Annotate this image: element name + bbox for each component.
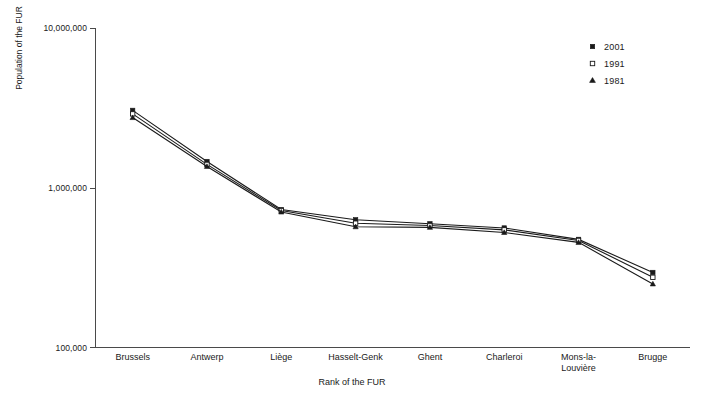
series-1981 bbox=[130, 115, 655, 286]
legend-label: 1991 bbox=[604, 59, 625, 69]
data-point-marker bbox=[650, 281, 655, 286]
legend-item-1991[interactable]: 1991 bbox=[585, 55, 625, 72]
legend-label: 2001 bbox=[604, 42, 625, 52]
legend-marker-filled-triangle-icon bbox=[585, 76, 599, 85]
series-2001 bbox=[130, 108, 655, 274]
legend-item-2001[interactable]: 2001 bbox=[585, 38, 625, 55]
legend-item-1981[interactable]: 1981 bbox=[585, 72, 625, 89]
y-tick-label: 1,000,000 bbox=[25, 183, 87, 193]
series-line-1991 bbox=[133, 114, 653, 277]
data-series-group bbox=[130, 108, 655, 286]
data-point-marker bbox=[651, 270, 655, 274]
series-1991 bbox=[130, 112, 655, 280]
y-tick-label: 100,000 bbox=[25, 343, 87, 353]
y-axis-title: Population of the FUR bbox=[14, 0, 24, 118]
x-tick-label: Brugge bbox=[609, 352, 697, 363]
chart-legend: 200119911981 bbox=[585, 38, 625, 89]
legend-marker-open-square-icon bbox=[585, 59, 599, 68]
legend-label: 1981 bbox=[604, 76, 625, 86]
x-axis-title: Rank of the FUR bbox=[0, 377, 704, 387]
y-tick-label: 10,000,000 bbox=[25, 23, 87, 33]
data-point-marker bbox=[651, 275, 655, 279]
population-rank-chart: 10,000,0001,000,000100,000 BrusselsAntwe… bbox=[0, 0, 704, 401]
series-line-2001 bbox=[133, 110, 653, 272]
legend-marker-filled-square-icon bbox=[585, 42, 599, 51]
series-line-1981 bbox=[133, 118, 653, 284]
